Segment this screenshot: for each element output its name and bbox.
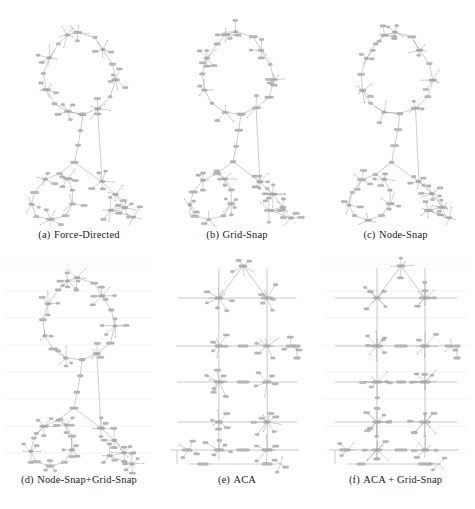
graph-leaf-dot bbox=[405, 261, 406, 262]
graph-node bbox=[399, 257, 402, 259]
graph-node bbox=[124, 469, 128, 471]
graph-node bbox=[196, 174, 201, 176]
graph-node bbox=[128, 445, 132, 447]
graph-node bbox=[433, 333, 439, 335]
graph-leaf-dot bbox=[127, 456, 128, 457]
graph-edge bbox=[31, 438, 34, 451]
graph-edge bbox=[233, 161, 260, 181]
graph-leaf-dot bbox=[244, 274, 245, 275]
graph-node bbox=[430, 412, 437, 414]
graph-node bbox=[213, 172, 221, 174]
graph-node bbox=[41, 72, 46, 74]
graph-leaf-dot bbox=[108, 221, 109, 222]
graph-leaf-dot bbox=[91, 106, 92, 107]
graph-node bbox=[78, 129, 83, 131]
graph-node bbox=[57, 280, 64, 282]
graph-edge bbox=[217, 161, 233, 173]
graph-leaf-dot bbox=[40, 90, 41, 91]
graph-node bbox=[221, 214, 226, 216]
subfigure-title-d: Node-Snap+Grid-Snap bbox=[37, 474, 137, 485]
graph-leaf-dot bbox=[425, 50, 426, 51]
graph-node bbox=[437, 195, 441, 197]
graph-leaf-dot bbox=[353, 174, 354, 175]
graph-node bbox=[268, 412, 274, 414]
graph-edge bbox=[394, 129, 398, 145]
graph-edge bbox=[361, 170, 363, 179]
graph-node bbox=[394, 24, 398, 26]
graph-node bbox=[60, 176, 65, 178]
graph-node bbox=[255, 352, 262, 354]
graph-node bbox=[382, 414, 386, 416]
graph-drawing-e bbox=[163, 250, 311, 475]
graph-node bbox=[108, 196, 112, 198]
graph-leaf-dot bbox=[227, 381, 228, 382]
graph-leaf-dot bbox=[72, 27, 73, 28]
graph-node bbox=[116, 68, 122, 70]
graph-node bbox=[136, 457, 139, 459]
graph-node bbox=[218, 178, 222, 180]
graph-node bbox=[386, 208, 391, 210]
subfigure-panel-a: (a)Force-Directed bbox=[0, 0, 158, 250]
subfigure-caption-e: (e)ACA bbox=[218, 475, 256, 509]
graph-node bbox=[55, 113, 61, 115]
graph-node bbox=[431, 469, 434, 471]
graph-leaf-dot bbox=[435, 370, 436, 371]
graph-node bbox=[273, 283, 278, 285]
graph-node bbox=[101, 439, 107, 441]
graph-node bbox=[34, 432, 39, 434]
graph-leaf-dot bbox=[444, 351, 445, 352]
graph-node bbox=[382, 337, 386, 339]
graph-node bbox=[81, 204, 88, 206]
graph-node bbox=[255, 342, 259, 344]
graph-edge bbox=[239, 114, 241, 130]
graph-edge bbox=[379, 112, 384, 122]
graph-node bbox=[230, 270, 234, 272]
graph-leaf-dot bbox=[90, 118, 91, 119]
graph-node bbox=[89, 187, 95, 189]
graph-node bbox=[90, 282, 97, 284]
graph-edge bbox=[243, 266, 267, 298]
graph-leaf-dot bbox=[40, 224, 41, 225]
graph-leaf-dot bbox=[412, 40, 413, 41]
graph-node bbox=[411, 100, 415, 102]
graph-canvas-e bbox=[158, 250, 316, 475]
graph-edge bbox=[267, 346, 273, 358]
graph-leaf-dot bbox=[63, 46, 64, 47]
graph-edge bbox=[382, 26, 384, 35]
graph-edge bbox=[377, 266, 401, 298]
graph-edge bbox=[390, 193, 394, 203]
graph-node bbox=[39, 296, 46, 298]
graph-node bbox=[129, 452, 134, 454]
graph-edge bbox=[439, 464, 443, 469]
graph-leaf-dot bbox=[67, 269, 68, 270]
graph-leaf-dot bbox=[277, 200, 278, 201]
graph-edge bbox=[98, 104, 105, 109]
graph-leaf-dot bbox=[252, 270, 253, 271]
graph-node bbox=[266, 197, 271, 199]
graph-leaf-dot bbox=[280, 423, 281, 424]
graph-edge bbox=[94, 283, 102, 296]
graph-node bbox=[364, 429, 370, 431]
graph-leaf-dot bbox=[204, 79, 205, 80]
graph-node bbox=[249, 49, 252, 51]
graph-node bbox=[431, 296, 437, 298]
graph-leaf-dot bbox=[66, 345, 67, 346]
graph-node bbox=[228, 188, 234, 190]
graph-leaf-dot bbox=[364, 381, 365, 382]
graph-node bbox=[273, 415, 279, 417]
graph-leaf-dot bbox=[274, 449, 275, 450]
graph-node bbox=[391, 35, 397, 37]
graph-node bbox=[58, 223, 63, 225]
subfigure-label-a: (a) bbox=[38, 229, 50, 240]
graph-node bbox=[71, 417, 75, 419]
graph-node bbox=[416, 54, 420, 56]
graph-leaf-dot bbox=[375, 221, 376, 222]
graph-canvas-a bbox=[0, 0, 158, 230]
graph-edge bbox=[46, 210, 50, 220]
graph-node bbox=[31, 437, 36, 439]
graph-leaf-dot bbox=[102, 56, 103, 57]
graph-leaf-dot bbox=[368, 354, 369, 355]
graph-node bbox=[41, 434, 46, 436]
graph-node bbox=[97, 356, 104, 358]
graph-edge bbox=[98, 108, 102, 181]
